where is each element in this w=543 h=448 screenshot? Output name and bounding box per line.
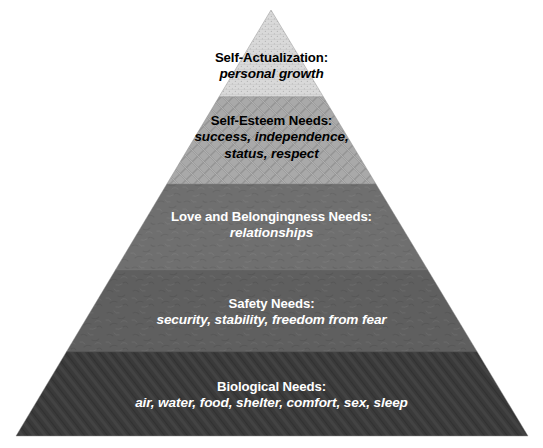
tier-band-self-esteem — [0, 97, 543, 184]
tier-band-self-actualization — [0, 0, 543, 97]
tier-band-biological — [0, 352, 543, 448]
pyramid-graphic — [0, 0, 543, 448]
tier-band-safety — [0, 270, 543, 352]
maslow-pyramid-diagram: Self-Actualization: personal growth Self… — [0, 0, 543, 448]
tier-band-love — [0, 184, 543, 270]
